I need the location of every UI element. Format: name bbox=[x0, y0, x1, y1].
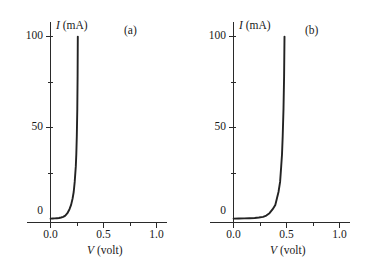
x-axis-title: V (volt) bbox=[270, 245, 305, 257]
y-axis-title: I (mA) bbox=[56, 20, 88, 32]
y-axis-title: I (mA) bbox=[239, 20, 271, 32]
panel-a: 100 50 0 0.0 0.5 1.0 I (mA) V (volt) (a) bbox=[0, 0, 183, 273]
x-tick-label-0: 0.0 bbox=[33, 229, 68, 241]
y-tick-label-0: 0 bbox=[194, 205, 226, 217]
y-tick-label-0: 0 bbox=[11, 205, 43, 217]
x-axis-symbol: V bbox=[270, 244, 277, 256]
x-tick-label-0: 0.0 bbox=[216, 229, 251, 241]
panel-label-b: (b) bbox=[305, 25, 318, 37]
diode-iv-curve bbox=[234, 37, 285, 219]
x-tick-label-1: 0.5 bbox=[86, 229, 121, 241]
panel-b: 100 50 0 0.0 0.5 1.0 I (mA) V (volt) (b) bbox=[183, 0, 366, 273]
panel-label-a: (a) bbox=[124, 25, 137, 37]
y-tick-label-50: 50 bbox=[11, 121, 43, 133]
y-axis-unit: (mA) bbox=[63, 19, 88, 31]
x-tick-label-2: 1.0 bbox=[322, 229, 357, 241]
x-axis-title: V (volt) bbox=[87, 245, 122, 257]
x-axis-unit: (volt) bbox=[97, 244, 123, 256]
x-tick-label-1: 0.5 bbox=[269, 229, 304, 241]
x-axis-unit: (volt) bbox=[280, 244, 306, 256]
y-tick-label-100: 100 bbox=[11, 30, 43, 42]
x-tick-label-2: 1.0 bbox=[139, 229, 174, 241]
iv-characteristics-figure: 100 50 0 0.0 0.5 1.0 I (mA) V (volt) (a) bbox=[0, 0, 366, 273]
y-tick-label-50: 50 bbox=[194, 121, 226, 133]
y-axis-unit: (mA) bbox=[246, 19, 271, 31]
diode-iv-curve bbox=[51, 37, 78, 219]
y-tick-label-100: 100 bbox=[194, 30, 226, 42]
x-axis-symbol: V bbox=[87, 244, 94, 256]
